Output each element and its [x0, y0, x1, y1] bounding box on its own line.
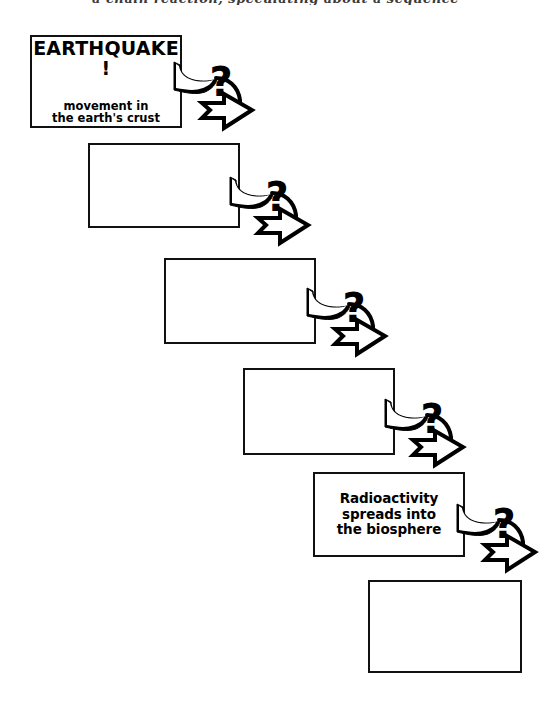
down-arrow-head: [413, 431, 463, 465]
box-radioactivity[interactable]: Radioactivity spreads into the biosphere: [313, 472, 465, 557]
down-arrow-head: [335, 320, 385, 354]
arrow-curve-shaft: [349, 304, 373, 334]
question-mark-glyph: ?: [342, 285, 365, 331]
question-mark-glyph: ?: [265, 174, 288, 220]
question-arrow-icon: ?: [305, 274, 391, 370]
box-earthquake-text: EARTHQUAKE ! movement in the earth's cru…: [29, 22, 183, 141]
box-earthquake[interactable]: EARTHQUAKE ! movement in the earth's cru…: [30, 35, 182, 128]
box-blank-6[interactable]: [368, 580, 522, 673]
box-earthquake-headline: EARTHQUAKE !: [33, 39, 179, 79]
connector-3: ?: [305, 274, 391, 370]
question-arrow-icon: ?: [172, 48, 258, 144]
question-arrow-icon: ?: [228, 163, 314, 259]
connector-1: ?: [172, 48, 258, 144]
arrow-curve-shaft: [499, 520, 523, 550]
down-arrow-head: [258, 209, 308, 243]
question-arrow-icon: ?: [455, 490, 541, 586]
box-radioactivity-text: Radioactivity spreads into the biosphere: [333, 491, 445, 539]
box-blank-2[interactable]: [88, 143, 240, 228]
box-earthquake-subtext: movement in the earth's crust: [33, 100, 179, 124]
question-mark-glyph: ?: [492, 501, 515, 547]
question-mark-glyph: ?: [420, 396, 443, 442]
connector-5: ?: [455, 490, 541, 586]
connector-2: ?: [228, 163, 314, 259]
box-blank-4[interactable]: [243, 368, 395, 455]
down-arrow-head: [202, 94, 252, 128]
question-arrow-icon: ?: [383, 385, 469, 481]
arrow-curve-shaft: [427, 415, 451, 445]
question-mark-glyph: ?: [209, 59, 232, 105]
box-blank-3[interactable]: [164, 258, 316, 344]
connector-4: ?: [383, 385, 469, 481]
page-title-cropped: a chain reaction, speculating about a se…: [0, 0, 551, 5]
arrow-curve-shaft: [272, 193, 296, 223]
worksheet-canvas: a chain reaction, speculating about a se…: [0, 0, 551, 709]
down-arrow-head: [485, 536, 535, 570]
arrow-curve-shaft: [216, 78, 240, 108]
